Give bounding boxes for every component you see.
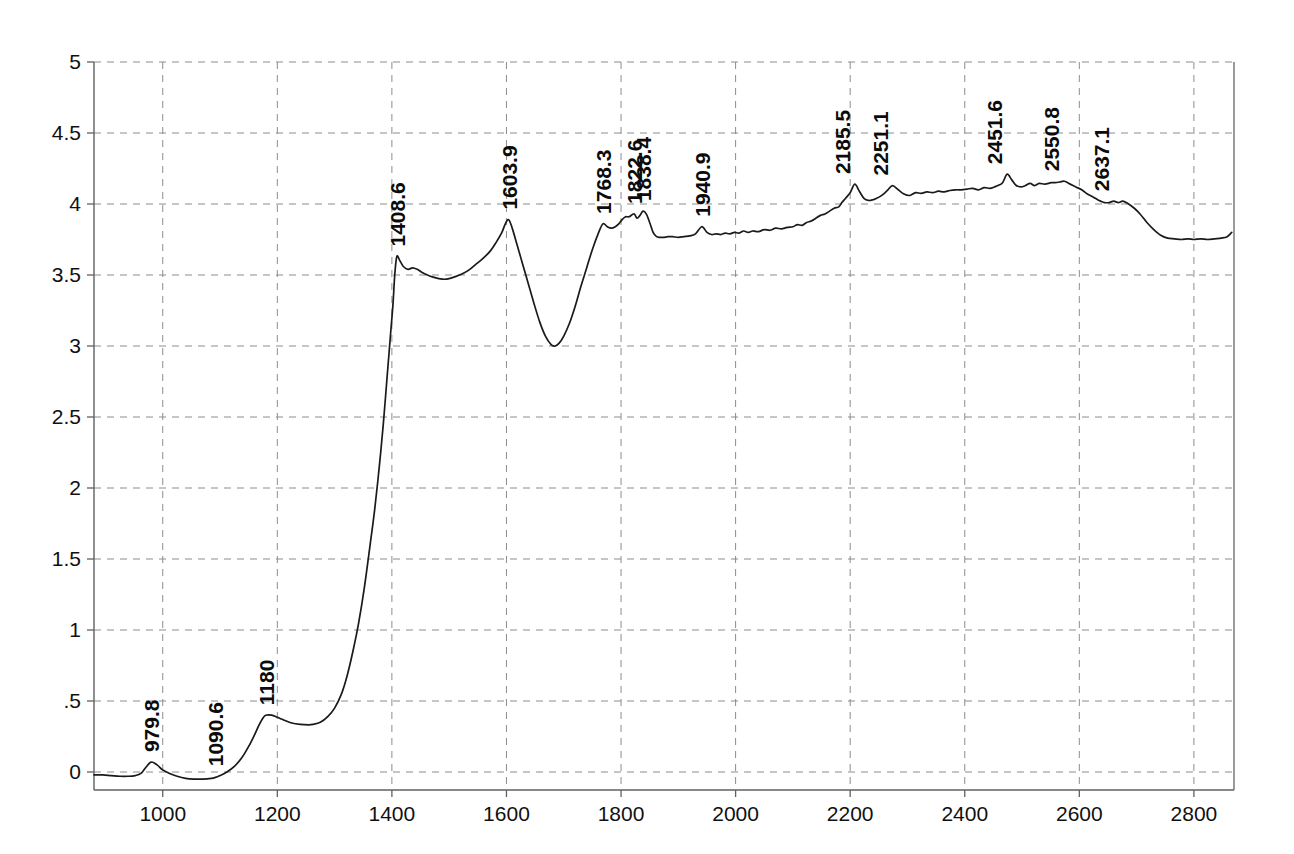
- x-tick-label: 2600: [1056, 802, 1103, 825]
- peak-label: 2550.8: [1040, 107, 1063, 172]
- x-tick-label: 2200: [827, 802, 874, 825]
- x-tick-label: 1800: [598, 802, 645, 825]
- peak-label: 2451.6: [983, 100, 1006, 164]
- x-tick-label: 2000: [712, 802, 759, 825]
- y-tick-label: 1: [69, 618, 81, 641]
- x-tick-label: 2800: [1171, 802, 1218, 825]
- spectrum-chart: 0.511.522.533.544.55 1000120014001600180…: [0, 0, 1294, 854]
- peak-label: 1603.9: [498, 145, 521, 209]
- peak-label: 2185.5: [831, 110, 854, 175]
- peak-label: 2251.1: [869, 111, 892, 176]
- peak-label: 1408.6: [386, 182, 409, 246]
- x-tick-label: 1000: [139, 802, 186, 825]
- peak-label: 979.8: [140, 699, 163, 752]
- peak-label: 2637.1: [1090, 127, 1113, 192]
- peak-annotations: 979.81090.611801408.61603.91768.31822.61…: [140, 100, 1112, 766]
- y-tick-label: 5: [69, 50, 81, 73]
- plot-canvas: 0.511.522.533.544.55 1000120014001600180…: [0, 0, 1294, 854]
- y-tick-label: .5: [63, 689, 81, 712]
- y-tick-labels: 0.511.522.533.544.55: [52, 50, 82, 783]
- peak-label: 1838.4: [632, 137, 655, 202]
- x-tick-label: 1600: [483, 802, 530, 825]
- x-tick-label: 1200: [254, 802, 301, 825]
- x-tick-label: 2400: [941, 802, 988, 825]
- y-tick-label: 2.5: [52, 405, 81, 428]
- y-tick-label: 4.5: [52, 121, 81, 144]
- y-tick-label: 3.5: [52, 263, 81, 286]
- y-tick-label: 4: [69, 192, 81, 215]
- peak-label: 1768.3: [592, 150, 615, 214]
- x-tick-label: 1400: [369, 802, 416, 825]
- x-tick-labels: 1000120014001600180020002200240026002800: [139, 802, 1217, 825]
- peak-label: 1940.9: [691, 152, 714, 216]
- peak-label: 1090.6: [204, 702, 227, 766]
- y-tick-label: 2: [69, 476, 81, 499]
- y-tick-label: 0: [69, 760, 81, 783]
- peak-label: 1180: [255, 660, 278, 706]
- y-tick-label: 1.5: [52, 547, 81, 570]
- y-tick-label: 3: [69, 334, 81, 357]
